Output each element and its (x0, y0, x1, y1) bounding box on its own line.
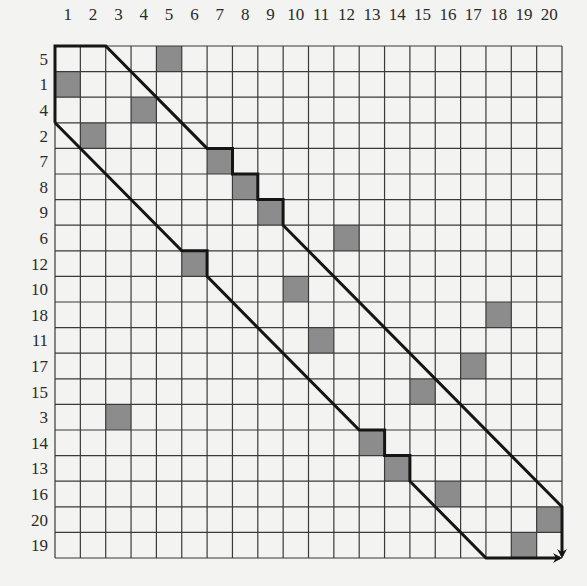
row-label: 20 (31, 511, 48, 530)
column-label: 14 (389, 5, 407, 24)
shaded-cell (80, 123, 105, 149)
column-label: 1 (63, 5, 72, 24)
column-label: 19 (515, 5, 532, 24)
shaded-cell (334, 225, 359, 251)
column-label: 7 (216, 5, 225, 24)
shaded-cell (232, 174, 257, 200)
column-label: 9 (266, 5, 275, 24)
row-label: 14 (31, 434, 49, 453)
shaded-cell (156, 46, 181, 72)
row-label: 8 (40, 178, 49, 197)
row-label: 1 (40, 75, 49, 94)
column-label: 20 (541, 5, 558, 24)
shaded-cell (385, 456, 410, 482)
row-label: 15 (31, 383, 48, 402)
shaded-cell (537, 507, 562, 533)
row-label: 2 (40, 127, 49, 146)
shaded-cell (182, 251, 207, 277)
row-label: 19 (31, 536, 48, 555)
row-label: 12 (31, 255, 48, 274)
shaded-cell (55, 72, 80, 98)
row-label: 3 (40, 408, 49, 427)
column-label: 13 (363, 5, 380, 24)
column-labels: 1234567891011121314151617181920 (63, 5, 557, 24)
grid-lines (55, 46, 562, 558)
row-label: 7 (40, 152, 49, 171)
row-label: 5 (40, 50, 49, 69)
shaded-cell (359, 430, 384, 456)
shaded-cell (106, 404, 131, 430)
shaded-cell (207, 148, 232, 174)
row-label: 16 (31, 485, 48, 504)
column-label: 18 (490, 5, 507, 24)
shaded-cell (410, 379, 435, 405)
row-label: 13 (31, 459, 48, 478)
column-label: 15 (414, 5, 431, 24)
column-label: 6 (190, 5, 199, 24)
column-label: 11 (313, 5, 329, 24)
column-label: 17 (465, 5, 483, 24)
column-label: 16 (439, 5, 456, 24)
shaded-cell (511, 532, 536, 558)
shaded-cell (486, 302, 511, 328)
column-label: 8 (241, 5, 250, 24)
shaded-cell (283, 276, 308, 302)
column-label: 12 (338, 5, 355, 24)
row-label: 4 (40, 101, 49, 120)
shaded-cell (309, 328, 334, 354)
row-label: 10 (31, 280, 48, 299)
column-label: 4 (139, 5, 148, 24)
row-labels: 5142789612101811171531413162019 (31, 50, 49, 555)
row-label: 11 (32, 331, 48, 350)
shaded-cell (435, 481, 460, 507)
shaded-cell (131, 97, 156, 123)
column-label: 10 (287, 5, 304, 24)
row-label: 6 (40, 229, 49, 248)
shaded-cell (258, 200, 283, 226)
row-label: 18 (31, 306, 48, 325)
column-label: 5 (165, 5, 174, 24)
row-label: 17 (31, 357, 49, 376)
row-label: 9 (40, 203, 49, 222)
column-label: 2 (89, 5, 98, 24)
shaded-cell (461, 353, 486, 379)
permutation-grid-diagram: 1234567891011121314151617181920 51427896… (0, 0, 587, 586)
column-label: 3 (114, 5, 123, 24)
